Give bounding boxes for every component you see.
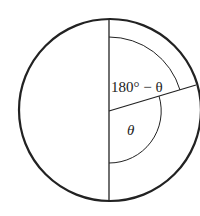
upper-angle-label: 180° − θ	[111, 79, 163, 95]
lower-angle-label: θ	[127, 122, 135, 138]
circle-diagram: 180° − θ θ	[0, 0, 200, 216]
lower-angle-arc	[109, 96, 161, 163]
